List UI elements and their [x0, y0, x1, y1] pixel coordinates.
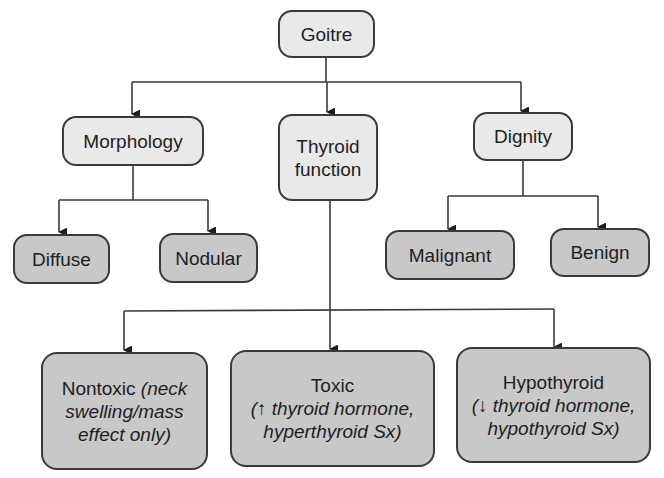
node-label: Goitre	[301, 23, 353, 46]
node-goitre: Goitre	[278, 10, 375, 58]
node-title: Toxic	[311, 374, 354, 397]
node-morphology: Morphology	[62, 116, 204, 166]
node-note-line2: hyperthyroid Sx)	[263, 420, 401, 443]
node-note-line1: (↓ thyroid hormone,	[472, 394, 636, 417]
node-label: Diffuse	[32, 248, 91, 271]
node-nontoxic: Nontoxic (neck swelling/mass effect only…	[41, 352, 208, 470]
node-thyroid-function: Thyroid function	[278, 114, 378, 201]
node-diffuse: Diffuse	[13, 234, 110, 284]
node-label: Nodular	[175, 247, 242, 270]
node-dignity: Dignity	[473, 112, 573, 161]
node-note-line1: (↑ thyroid hormone,	[251, 397, 415, 420]
node-label-line1: Thyroid	[296, 135, 359, 158]
node-note-line2: hypothyroid Sx)	[487, 417, 619, 440]
node-toxic: Toxic (↑ thyroid hormone, hyperthyroid S…	[230, 350, 435, 467]
node-hypothyroid: Hypothyroid (↓ thyroid hormone, hypothyr…	[456, 347, 651, 463]
node-title: Hypothyroid	[503, 371, 604, 394]
node-label-line2: function	[295, 158, 362, 181]
node-label: Dignity	[494, 125, 552, 148]
node-benign: Benign	[550, 228, 650, 277]
node-note-line3: effect only)	[78, 423, 171, 446]
node-note-line1: (neck	[141, 378, 187, 399]
node-label: Malignant	[409, 244, 491, 267]
node-note-line2: swelling/mass	[65, 400, 183, 423]
node-title: Nontoxic	[62, 378, 136, 399]
node-nodular: Nodular	[159, 233, 258, 283]
node-malignant: Malignant	[385, 230, 515, 280]
node-label: Morphology	[83, 130, 182, 153]
node-label: Benign	[570, 241, 629, 264]
